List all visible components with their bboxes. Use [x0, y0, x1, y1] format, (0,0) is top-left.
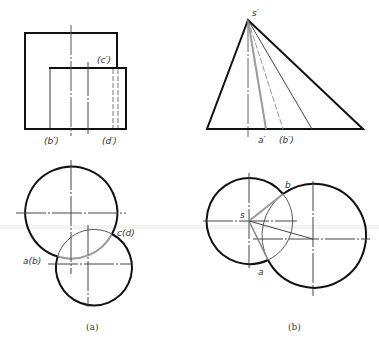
panel-a-front-view: (c′) (b′) (d′) — [25, 25, 126, 146]
small-circle-hidden-arc — [58, 229, 112, 256]
panel-b-front-view: s′ a′ (b′) — [207, 8, 363, 145]
intersection-arc — [58, 234, 112, 259]
label-a: a — [258, 267, 264, 277]
projection-diagram: (c′) (b′) (d′) a(b) c(d) (a) s′ a — [0, 0, 379, 342]
label-b-prime: (b′) — [44, 136, 59, 146]
label-s-prime: s′ — [252, 8, 259, 18]
small-circle — [56, 234, 132, 305]
connector-s-center — [249, 221, 313, 239]
label-d-prime: (d′) — [102, 136, 117, 146]
scan-artifact — [0, 225, 379, 229]
label-a-b: a(b) — [23, 256, 41, 266]
label-c-prime: (c′) — [97, 55, 111, 65]
label-a-prime: a′ — [258, 135, 266, 145]
cylinder-circle — [268, 184, 366, 288]
generator-sb — [249, 194, 283, 221]
caption-a: (a) — [86, 322, 98, 332]
label-s: s — [240, 210, 245, 220]
panel-b-top-view: s b a — [203, 173, 370, 296]
label-c-d: c(d) — [117, 228, 135, 238]
caption-b: (b) — [288, 322, 301, 332]
panel-a-top-view: a(b) c(d) — [16, 160, 135, 307]
label-b: b — [285, 180, 291, 190]
generator-a-prime — [248, 20, 266, 129]
cone-outline — [207, 20, 363, 129]
label-b-prime: (b′) — [279, 135, 294, 145]
